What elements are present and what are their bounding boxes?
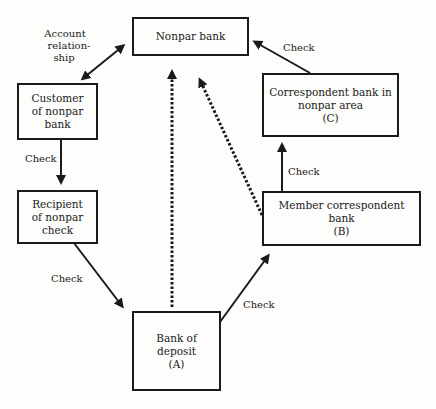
node-label: Member correspondent bank	[264, 199, 419, 225]
node-label: check	[42, 224, 73, 237]
node-recipient-of-nonpar-check: Recipient of nonpar check	[17, 190, 98, 244]
node-label: (C)	[322, 112, 338, 125]
node-label: deposit	[157, 345, 196, 358]
node-label: nonpar area	[298, 99, 363, 112]
label-check-correspondent-nonpar: Check	[283, 42, 315, 54]
node-customer-of-nonpar-bank: Customer of nonpar bank	[17, 83, 98, 140]
node-label: Recipient	[32, 198, 83, 211]
node-member-correspondent-bank-b: Member correspondent bank (B)	[262, 191, 421, 246]
node-label: of nonpar	[32, 211, 83, 224]
label-line: ship	[24, 52, 104, 64]
node-label: bank	[44, 118, 70, 131]
label-check-customer-recipient: Check	[25, 153, 57, 165]
label-line: relation-	[34, 40, 104, 52]
node-correspondent-bank-c: Correspondent bank in nonpar area (C)	[262, 73, 399, 137]
label-check-deposit-member: Check	[243, 299, 275, 311]
label-account-relationship: Account relation- ship	[34, 28, 104, 64]
label-check-member-correspondent: Check	[288, 166, 320, 178]
node-nonpar-bank: Nonpar bank	[132, 17, 249, 56]
node-label: of nonpar	[32, 105, 83, 118]
node-label: Customer	[32, 92, 84, 105]
node-label: Nonpar bank	[156, 30, 226, 43]
node-bank-of-deposit-a: Bank of deposit (A)	[132, 311, 221, 391]
label-check-recipient-deposit: Check	[51, 273, 83, 285]
node-label: (A)	[169, 358, 185, 371]
check-arrow-deposit-member	[220, 256, 268, 322]
label-line: Account	[26, 28, 104, 40]
dotted-arrow-member-nonpar	[200, 80, 262, 215]
node-label: Correspondent bank in	[269, 86, 392, 99]
node-label: (B)	[334, 225, 350, 238]
node-label: Bank of	[156, 332, 197, 345]
